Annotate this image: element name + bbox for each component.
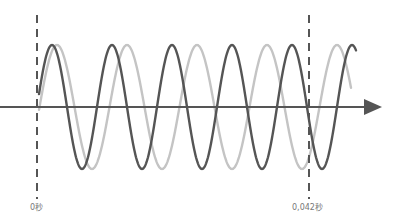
axis-arrow-icon (364, 99, 382, 115)
wave-diagram (0, 0, 400, 224)
start-time-label: 0秒 (30, 201, 43, 212)
end-time-label: 0,042秒 (292, 201, 323, 212)
